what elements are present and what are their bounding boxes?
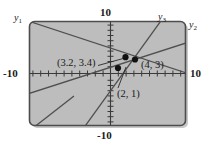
data-point-2-1 [115,65,121,71]
curve-label-y3-sub: 3 [162,16,166,24]
axis-label-top: 10 [100,7,111,18]
point-label-2-1: (2, 1) [117,89,140,100]
curve-label-y1-sub: 1 [18,17,22,25]
point-label-4-3: (4, 3) [141,60,164,71]
curve-label-y1: y1 [14,13,22,23]
axis-label-right: 10 [190,68,201,79]
axis-label-left: -10 [3,68,18,79]
plot-canvas [0,0,214,146]
point-label-3.2-3.4: (3.2, 3.4) [57,58,96,69]
data-point-3.2-3.4 [122,54,128,60]
axis-label-bottom: -10 [97,130,112,141]
curve-label-y3: y3 [158,12,166,22]
curve-label-y2: y2 [189,20,197,30]
graph-figure: 10 -10 10 -10 y1 y3 y2 (3.2, 3.4) (4, 3)… [0,0,214,146]
curve-label-y2-sub: 2 [193,24,197,32]
data-point-4-3 [132,56,138,62]
